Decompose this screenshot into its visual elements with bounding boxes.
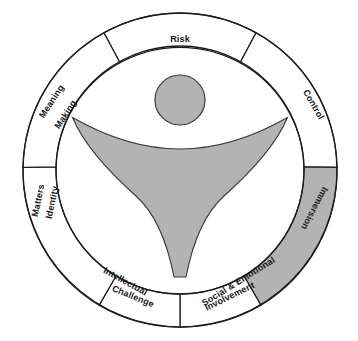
figure-head-circle: [155, 75, 205, 125]
label-risk: Risk: [170, 34, 190, 44]
engagement-wheel-diagram: Risk Control Immersion Social & Emotiona…: [0, 0, 358, 341]
central-figure-shape: [73, 118, 288, 278]
wheel-svg: Risk Control Immersion Social & Emotiona…: [0, 0, 358, 341]
